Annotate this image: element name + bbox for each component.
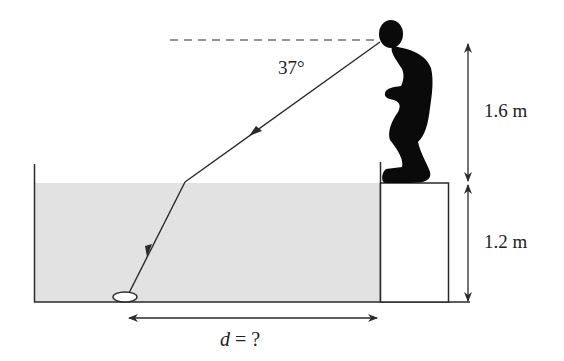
coin — [113, 292, 137, 302]
platform-box — [381, 183, 449, 302]
water — [35, 183, 380, 302]
refraction-diagram: 37° 1.6 m 1.2 m d = ? — [0, 0, 564, 361]
person-height-label: 1.6 m — [484, 100, 528, 121]
distance-label: d = ? — [220, 328, 260, 350]
person-silhouette — [379, 20, 433, 183]
angle-label: 37° — [278, 57, 305, 78]
box-height-label: 1.2 m — [484, 231, 528, 252]
